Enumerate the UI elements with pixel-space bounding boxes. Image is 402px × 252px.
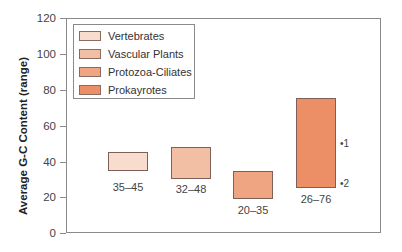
range-bar-protozoa-ciliates: [233, 171, 273, 199]
range-bar-vascular-plants: [171, 147, 211, 179]
range-label-vascular-plants: 32–48: [161, 183, 221, 195]
y-tick-label: 40: [4, 156, 56, 168]
range-label-vertebrates: 35–45: [98, 181, 158, 193]
legend-label: Prokayrotes: [108, 84, 167, 96]
y-tick: [60, 197, 66, 198]
legend-swatch: [79, 49, 101, 59]
y-tick-label: 80: [4, 84, 56, 96]
y-tick-label: 120: [4, 12, 56, 24]
legend-item-protozoa-ciliates: Protozoa-Ciliates: [79, 66, 192, 77]
legend-label: Protozoa-Ciliates: [108, 66, 192, 78]
range-label-prokaryotes: 26–76: [286, 193, 346, 205]
y-tick-label: 60: [4, 120, 56, 132]
legend-item-prokaryotes: Prokayrotes: [79, 84, 167, 95]
y-tick: [60, 54, 66, 55]
y-axis-label: Average G-C Content (range): [17, 57, 29, 215]
range-bar-vertebrates: [108, 152, 148, 171]
legend: Vertebrates Vascular Plants Protozoa-Cil…: [73, 24, 195, 99]
y-tick: [60, 162, 66, 163]
legend-label: Vascular Plants: [108, 48, 184, 60]
y-tick-label: 20: [4, 191, 56, 203]
legend-swatch: [79, 85, 101, 95]
marker-2: •2: [340, 178, 349, 189]
range-label-protozoa-ciliates: 20–35: [223, 204, 283, 216]
y-tick: [60, 90, 66, 91]
legend-swatch: [79, 31, 101, 41]
y-tick: [60, 18, 66, 19]
y-tick-label: 0: [4, 227, 56, 239]
legend-label: Vertebrates: [108, 30, 164, 42]
legend-item-vertebrates: Vertebrates: [79, 30, 164, 41]
marker-1: •1: [340, 138, 349, 149]
legend-item-vascular-plants: Vascular Plants: [79, 48, 184, 59]
y-tick: [60, 126, 66, 127]
y-tick-label: 100: [4, 48, 56, 60]
legend-swatch: [79, 67, 101, 77]
range-bar-prokaryotes: [296, 98, 336, 188]
y-tick: [60, 233, 66, 234]
